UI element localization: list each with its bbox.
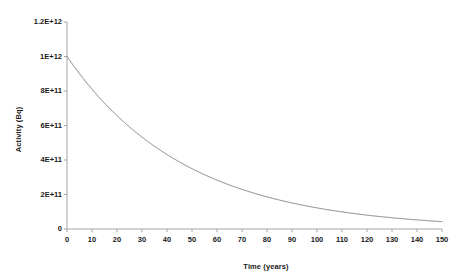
y-axis-tick-label: 1.2E+12 <box>34 18 62 26</box>
axes-group <box>64 22 442 232</box>
x-axis-title: Time (years) <box>0 262 472 271</box>
y-axis-tick-label: 4E+11 <box>41 156 62 164</box>
y-axis-tick-label: 8E+11 <box>41 87 62 95</box>
y-axis-tick-label: 0 <box>58 225 62 233</box>
x-axis-tick-labels: 0102030405060708090100110120130140150 <box>0 236 472 250</box>
x-axis-tick-label: 150 <box>427 236 457 244</box>
y-axis-title: Activity (Bq) <box>14 80 23 180</box>
y-axis-tick-label: 2E+11 <box>41 191 62 199</box>
decay-curve-line <box>67 57 442 222</box>
chart-container: 02E+114E+116E+118E+111E+121.2E+12 010203… <box>0 0 472 279</box>
y-axis-tick-label: 6E+11 <box>41 122 62 130</box>
y-axis-tick-label: 1E+12 <box>40 53 62 61</box>
